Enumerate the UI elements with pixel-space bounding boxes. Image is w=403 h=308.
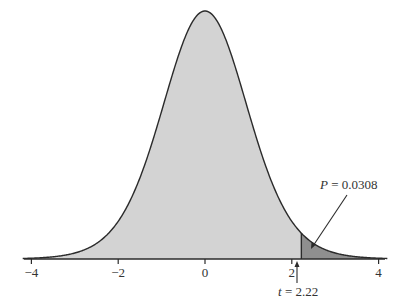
x-tick-label: 4 (375, 265, 382, 280)
t-stat-label: t = 2.22 (278, 284, 318, 299)
x-tick-label: −2 (111, 265, 125, 280)
x-tick-label: 2 (289, 265, 296, 280)
t-distribution-chart: −4−2024 P = 0.0308 t = 2.22 (0, 0, 403, 308)
density-area (23, 11, 388, 259)
p-value-label: P = 0.0308 (319, 177, 378, 192)
p-value-pointer (313, 195, 347, 246)
x-tick-label: 0 (202, 265, 209, 280)
x-tick-label: −4 (24, 265, 38, 280)
t-stat-arrowhead (295, 261, 300, 267)
x-axis-ticks: −4−2024 (24, 259, 382, 280)
